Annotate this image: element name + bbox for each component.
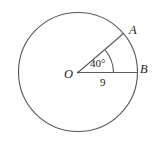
angle-measure-label: 40° [90, 58, 105, 69]
center-point-dot [77, 72, 79, 74]
point-label-b: B [140, 63, 148, 76]
diagram-canvas [0, 0, 158, 144]
center-label-o: O [64, 68, 73, 81]
point-label-a: A [129, 24, 137, 37]
angle-arc-aob [105, 50, 113, 72]
circle-sector-diagram: O A B 40° 9 [0, 0, 158, 144]
radius-length-label: 9 [100, 77, 106, 88]
